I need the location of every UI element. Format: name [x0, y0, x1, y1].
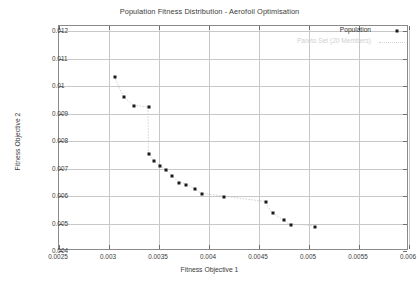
data-point: [178, 181, 181, 184]
x-tick-label: 0.006: [400, 253, 416, 260]
data-point: [153, 160, 156, 163]
data-point: [193, 187, 196, 190]
x-tick-label: 0.0025: [48, 253, 68, 260]
chart-legend: Population Pareto Set (20 Members): [255, 26, 405, 50]
x-tick-label: 0.004: [200, 253, 216, 260]
plot-area: [58, 25, 408, 250]
chart-title: Population Fitness Distribution - Aerofo…: [0, 7, 419, 16]
data-point: [201, 193, 204, 196]
legend-item-population: Population: [255, 26, 405, 37]
x-axis-title: Fitness Objective 1: [0, 266, 419, 273]
legend-marker-dotted-line-icon: [379, 42, 405, 43]
gridline-vertical: [409, 26, 410, 249]
data-point: [222, 195, 225, 198]
x-tick-label: 0.0045: [248, 253, 268, 260]
y-axis-title: Fitness Objective 2: [14, 82, 21, 202]
chart-figure: Population Fitness Distribution - Aerofo…: [0, 0, 419, 286]
x-tick: [409, 26, 410, 30]
x-tick: [409, 245, 410, 249]
population-points: [59, 26, 407, 249]
data-point: [113, 75, 116, 78]
data-point: [158, 164, 161, 167]
data-point: [147, 106, 150, 109]
data-point: [282, 219, 285, 222]
x-tick-label: 0.005: [300, 253, 316, 260]
data-point: [264, 201, 267, 204]
data-point: [122, 95, 125, 98]
legend-item-pareto-set: Pareto Set (20 Members): [255, 37, 405, 48]
legend-label-pareto-set: Pareto Set (20 Members): [297, 37, 371, 44]
legend-label-population: Population: [340, 26, 371, 33]
data-point: [289, 224, 292, 227]
data-point: [272, 212, 275, 215]
x-tick-label: 0.0055: [348, 253, 368, 260]
x-tick-label: 0.003: [100, 253, 116, 260]
x-tick-label: 0.0035: [148, 253, 168, 260]
data-point: [165, 169, 168, 172]
data-point: [185, 183, 188, 186]
legend-marker-square-icon: [396, 30, 399, 33]
data-point: [313, 225, 316, 228]
data-point: [132, 104, 135, 107]
data-point: [148, 152, 151, 155]
y-tick: [403, 251, 407, 252]
data-point: [171, 174, 174, 177]
